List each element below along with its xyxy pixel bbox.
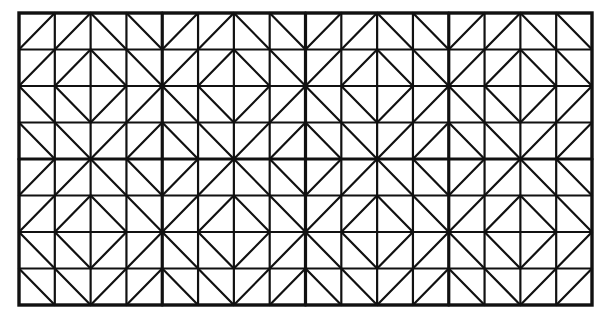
diagonal-line <box>270 232 306 269</box>
diagonal-line <box>377 269 413 306</box>
diagonal-line <box>198 123 234 160</box>
diagonal-line <box>377 159 413 196</box>
diagonal-line <box>520 123 556 160</box>
diagonal-line <box>270 50 306 87</box>
diagonal-line <box>520 13 556 50</box>
diagonal-line <box>556 159 592 196</box>
diagonal-line <box>413 232 449 269</box>
diagonal-line <box>556 123 592 160</box>
diagonal-line <box>126 196 162 233</box>
diagonal-line <box>413 196 449 233</box>
diagonal-line <box>270 13 306 50</box>
diagonal-line <box>306 232 342 269</box>
diagonal-line <box>520 86 556 123</box>
diagonal-line <box>19 50 55 87</box>
diagonal-line <box>234 196 270 233</box>
diagonal-line <box>449 86 485 123</box>
diagonal-line <box>449 232 485 269</box>
diagonal-line <box>306 159 342 196</box>
diagonal-line <box>413 123 449 160</box>
diagonal-line <box>162 50 198 87</box>
diagonal-line <box>126 159 162 196</box>
diagonal-line <box>55 50 91 87</box>
major-grid-lines <box>19 13 592 305</box>
diagonal-line <box>520 159 556 196</box>
diagonal-line <box>449 50 485 87</box>
diagonal-line <box>341 196 377 233</box>
diagonal-line <box>485 50 521 87</box>
diagonal-line <box>234 123 270 160</box>
diagonal-line <box>413 50 449 87</box>
diagonal-line <box>413 86 449 123</box>
diagonal-line <box>449 123 485 160</box>
diagonal-line <box>413 269 449 306</box>
diagonal-line <box>162 269 198 306</box>
diagonal-line <box>270 196 306 233</box>
diagonal-line <box>377 50 413 87</box>
diagonal-line <box>270 269 306 306</box>
diagonal-line <box>449 269 485 306</box>
diagonal-line <box>198 232 234 269</box>
diagonal-line <box>520 50 556 87</box>
diagonal-line <box>19 269 55 306</box>
diagonal-line <box>377 123 413 160</box>
diagonal-line <box>377 196 413 233</box>
diagonal-line <box>413 13 449 50</box>
diagonal-line <box>91 232 127 269</box>
diagonal-line <box>485 269 521 306</box>
diagonal-line <box>449 13 485 50</box>
diagonal-line <box>19 159 55 196</box>
diagonal-line <box>341 123 377 160</box>
diagonal-line <box>19 232 55 269</box>
diagonal-line <box>162 86 198 123</box>
diagonal-line <box>198 196 234 233</box>
diagonal-line <box>55 196 91 233</box>
diagonal-line <box>162 123 198 160</box>
diagonal-line <box>91 50 127 87</box>
diagonal-line <box>126 123 162 160</box>
diagonal-line <box>55 123 91 160</box>
diagonal-line <box>234 269 270 306</box>
diagonal-line <box>520 269 556 306</box>
diagonal-line <box>306 269 342 306</box>
diagonal-line <box>126 50 162 87</box>
diagonal-line <box>55 13 91 50</box>
diagonal-line <box>234 13 270 50</box>
diagonal-line <box>485 232 521 269</box>
diagonal-line <box>234 159 270 196</box>
diagonal-line <box>377 86 413 123</box>
diagonal-line <box>162 196 198 233</box>
diagonal-line <box>198 13 234 50</box>
diagonal-line <box>55 86 91 123</box>
diagonal-line <box>449 159 485 196</box>
diagonal-line <box>341 13 377 50</box>
diagonal-line <box>270 123 306 160</box>
diagonal-line <box>485 123 521 160</box>
diagonal-line <box>126 86 162 123</box>
diagonal-line <box>55 269 91 306</box>
diagonal-line <box>306 50 342 87</box>
diagonal-line <box>162 159 198 196</box>
diagonal-line <box>556 50 592 87</box>
diagonal-line <box>377 13 413 50</box>
diagonal-line <box>341 86 377 123</box>
diagonal-line <box>341 50 377 87</box>
diagonal-line <box>270 86 306 123</box>
diagonal-line <box>485 86 521 123</box>
diagonal-line <box>306 196 342 233</box>
diagonal-line <box>55 159 91 196</box>
diagonal-line <box>341 269 377 306</box>
diagonal-line <box>198 159 234 196</box>
diagonal-line <box>91 159 127 196</box>
diagonal-line <box>234 232 270 269</box>
diagonal-line <box>126 269 162 306</box>
diagonal-line <box>520 232 556 269</box>
diagonal-line <box>556 86 592 123</box>
diagonal-line <box>91 86 127 123</box>
diagonal-line <box>19 13 55 50</box>
diagonal-line <box>449 196 485 233</box>
diagonal-line <box>485 196 521 233</box>
diagonal-line <box>234 86 270 123</box>
diagonal-line <box>341 232 377 269</box>
diagonal-line <box>162 13 198 50</box>
